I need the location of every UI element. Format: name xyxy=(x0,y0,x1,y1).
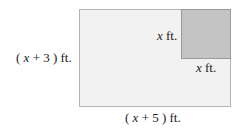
inner-square xyxy=(181,9,231,59)
inner-square-width-label: x ft. xyxy=(196,61,216,75)
outer-width-label: ( x + 5 ) ft. xyxy=(125,111,181,125)
outer-height-label: ( x + 3 ) ft. xyxy=(16,51,72,65)
inner-square-height-label: x ft. xyxy=(157,29,177,43)
